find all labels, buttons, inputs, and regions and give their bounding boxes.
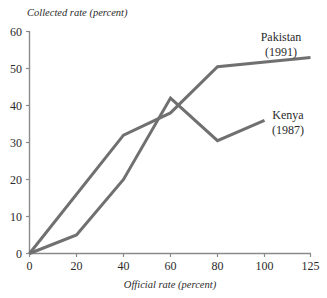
x-axis-title: Official rate (percent) xyxy=(124,279,217,291)
y-tick-label-30: 30 xyxy=(10,136,22,150)
series-line-pakistan xyxy=(30,57,311,253)
series-line-kenya xyxy=(30,98,265,253)
x-tick-label-20: 20 xyxy=(71,259,83,273)
y-axis-title: Collected rate (percent) xyxy=(27,7,128,19)
x-tick-label-80: 80 xyxy=(212,259,224,273)
series-label-kenya-name: Kenya xyxy=(272,108,304,122)
x-tick-label-100: 100 xyxy=(256,259,274,273)
x-tick-label-0: 0 xyxy=(27,259,33,273)
series-label-pakistan-year: (1991) xyxy=(265,45,297,59)
x-tick-label-40: 40 xyxy=(118,259,130,273)
y-tick-label-0: 0 xyxy=(16,247,22,261)
y-tick-label-20: 20 xyxy=(10,173,22,187)
y-tick-label-40: 40 xyxy=(10,99,22,113)
y-tick-label-10: 10 xyxy=(10,210,22,224)
line-chart: Collected rate (percent) 60 50 40 30 20 … xyxy=(0,0,327,298)
series-label-kenya-year: (1987) xyxy=(272,123,304,137)
x-tick-label-60: 60 xyxy=(165,259,177,273)
x-tick-label-125: 125 xyxy=(302,259,320,273)
y-tick-label-60: 60 xyxy=(10,25,22,39)
chart-container: Collected rate (percent) 60 50 40 30 20 … xyxy=(0,0,327,298)
y-tick-label-50: 50 xyxy=(10,62,22,76)
series-label-pakistan-name: Pakistan xyxy=(261,30,302,44)
